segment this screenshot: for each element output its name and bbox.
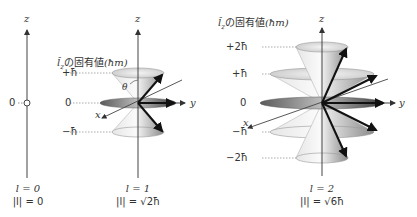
angular-momentum-diagram	[0, 0, 417, 217]
panel-l0	[18, 30, 30, 178]
level-label: 0	[240, 98, 246, 108]
eigen-header: l̂zの固有値(ħm)	[218, 18, 289, 31]
caption-l0: l = 0 |l| = 0	[0, 183, 56, 208]
level-label: +ħ	[62, 68, 77, 78]
panel-l2	[248, 28, 395, 176]
level-label: +ħ	[232, 69, 247, 79]
caption-l1: l = 1 |l| = √2ħ	[110, 183, 166, 208]
y-axis-label: y	[399, 98, 405, 108]
z-axis-label: z	[135, 14, 140, 24]
z-axis-label: z	[24, 14, 29, 24]
caption-l2: l = 2 |l| = √6ħ	[294, 183, 350, 208]
level-label: −ħ	[62, 127, 77, 137]
origin-point	[24, 100, 30, 106]
level-label: +2ħ	[226, 42, 248, 52]
y-axis-label: y	[190, 98, 196, 108]
level-label: −ħ	[232, 127, 247, 137]
theta-label: θ	[122, 83, 127, 92]
panel-l1	[70, 30, 185, 178]
z-axis-label: z	[319, 14, 324, 24]
level-label: −2ħ	[226, 153, 248, 163]
level-label: 0	[9, 98, 15, 108]
x-axis-label: x	[95, 110, 101, 120]
level-label: 0	[65, 98, 71, 108]
